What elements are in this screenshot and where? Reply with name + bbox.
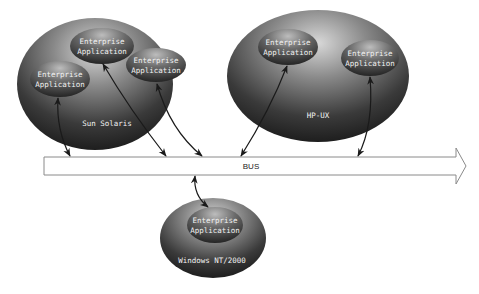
app-label-line1: Enterprise [79, 37, 125, 46]
architecture-diagram: Enterprise Application Enterprise Applic… [0, 0, 479, 294]
app-label-line2: Application [263, 48, 313, 57]
app-label-line1: Enterprise [192, 216, 238, 225]
app-node: Enterprise Application [70, 28, 134, 64]
app-label-line1: Enterprise [37, 70, 83, 79]
platform-label: HP-UX [307, 111, 330, 120]
app-ellipse [341, 40, 399, 76]
platform-sun-solaris: Enterprise Application Enterprise Applic… [17, 18, 186, 150]
app-ellipse [30, 61, 90, 97]
bus: BUS [44, 148, 466, 184]
app-ellipse [187, 207, 243, 243]
platform-hp-ux: Enterprise Application Enterprise Applic… [227, 10, 409, 142]
app-label-line2: Application [345, 59, 395, 68]
bus-label: BUS [243, 162, 259, 171]
app-ellipse [258, 29, 318, 65]
app-label-line2: Application [77, 47, 127, 56]
platform-windows-nt: Enterprise Application Windows NT/2000 [160, 198, 266, 278]
platform-ellipse [227, 10, 409, 142]
app-label-line1: Enterprise [133, 56, 179, 65]
app-node: Enterprise Application [30, 61, 90, 97]
app-node: Enterprise Application [341, 40, 399, 76]
app-label-line1: Enterprise [347, 49, 393, 58]
app-label-line2: Application [35, 80, 85, 89]
app-node: Enterprise Application [126, 48, 186, 82]
app-ellipse [70, 28, 134, 64]
app-label-line2: Application [190, 226, 240, 235]
app-node: Enterprise Application [258, 29, 318, 65]
app-node: Enterprise Application [187, 207, 243, 243]
platform-label: Windows NT/2000 [178, 256, 246, 265]
app-label-line1: Enterprise [265, 38, 311, 47]
app-ellipse [126, 48, 186, 82]
platform-label: Sun Solaris [82, 119, 132, 128]
app-label-line2: Application [131, 66, 181, 75]
